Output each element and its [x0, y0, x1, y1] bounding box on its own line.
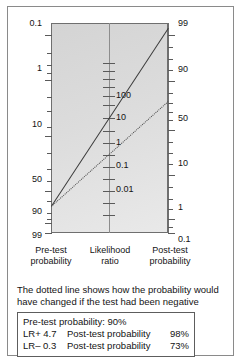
tick-center	[103, 143, 115, 144]
tick-center	[103, 63, 115, 64]
tick-right-minor	[168, 187, 173, 188]
tick-center	[103, 96, 115, 97]
post-test-tick-label: 10	[178, 159, 188, 168]
lr-negative-label: Post-test probability	[67, 340, 170, 352]
lr-positive-value: LR+ 4.7	[23, 328, 67, 340]
tick-center	[103, 71, 115, 72]
tick-right-minor	[168, 112, 173, 113]
tick-right	[168, 35, 175, 36]
tick-center	[103, 191, 115, 192]
pre-test-probability-row: Pre-test probability: 90%	[23, 316, 189, 328]
tick-right-minor	[168, 47, 173, 48]
post-test-tick-label: 0.1	[178, 235, 191, 244]
likelihood-ratio-tick-label: 0.01	[116, 185, 134, 194]
pre-test-tick-label: 1	[8, 64, 42, 73]
tick-left	[45, 191, 52, 192]
tick-left	[45, 35, 52, 36]
tick-center	[103, 179, 115, 180]
lr-negative-value: LR– 0.3	[23, 340, 67, 352]
tick-center	[103, 131, 115, 132]
tick-right-minor	[168, 164, 173, 165]
tick-center	[103, 105, 115, 106]
post-test-negative-value: 73%	[170, 340, 189, 352]
tick-left-minor	[47, 219, 52, 220]
tick-right-minor	[168, 142, 173, 143]
tick-right	[168, 175, 175, 176]
tick-left-minor	[47, 213, 52, 214]
tick-right-minor	[168, 93, 173, 94]
post-test-tick-label: 50	[178, 114, 188, 123]
tick-left-minor	[47, 111, 52, 112]
pre-test-tick-label: 50	[8, 175, 42, 184]
post-test-axis-caption-line1: Post-test	[135, 245, 205, 256]
tick-left	[45, 233, 52, 234]
tick-center	[103, 215, 115, 216]
tick-left-minor	[47, 153, 52, 154]
tick-left-minor	[47, 201, 52, 202]
tick-right	[168, 81, 175, 82]
post-test-axis-caption: Post-test probability	[135, 245, 205, 267]
tick-center	[103, 79, 115, 80]
post-test-tick-label: 99	[178, 19, 188, 28]
lr-positive-label: Post-test probability	[67, 328, 170, 340]
nomogram-chart: 0.1 1 10 50 90 99 100 10 1 0.1 0.01	[8, 7, 235, 247]
tick-right-minor	[168, 209, 173, 210]
tick-center	[103, 167, 115, 168]
post-test-tick-label: 90	[178, 65, 188, 74]
tick-right	[168, 233, 175, 234]
tick-left-minor	[47, 97, 52, 98]
pre-test-tick-label: 10	[8, 120, 42, 129]
figure-caption: The dotted line shows how the probabilit…	[17, 284, 227, 308]
tick-right-minor	[168, 199, 173, 200]
tick-center	[103, 87, 115, 88]
likelihood-ratio-axis-line	[109, 23, 110, 233]
pre-test-tick-label: 90	[8, 207, 42, 216]
results-box: Pre-test probability: 90% LR+ 4.7Post-te…	[17, 312, 195, 357]
tick-right-minor	[168, 59, 173, 60]
tick-right	[168, 219, 175, 220]
likelihood-ratio-tick-label: 0.1	[116, 161, 129, 170]
tick-left-minor	[47, 53, 52, 54]
tick-left	[45, 136, 52, 137]
likelihood-ratio-tick-label: 10	[116, 113, 126, 122]
tick-right-minor	[168, 227, 173, 228]
tick-right-minor	[168, 120, 173, 121]
tick-right-minor	[168, 70, 173, 71]
post-test-axis-caption-line2: probability	[135, 256, 205, 267]
tick-center	[103, 203, 115, 204]
tick-left	[45, 223, 52, 224]
post-test-tick-label: 1	[178, 203, 183, 212]
tick-left-minor	[47, 73, 52, 74]
pre-test-tick-label: 99	[8, 231, 42, 240]
tick-left-minor	[47, 65, 52, 66]
lr-negative-row: LR– 0.3Post-test probability73%	[23, 340, 189, 352]
post-test-axis-line	[168, 23, 169, 233]
tick-right-minor	[168, 153, 173, 154]
tick-left-minor	[47, 127, 52, 128]
nomogram-figure: 0.1 1 10 50 90 99 100 10 1 0.1 0.01	[7, 6, 234, 356]
post-test-positive-value: 98%	[170, 328, 189, 340]
tick-left	[45, 80, 52, 81]
tick-left-minor	[47, 169, 52, 170]
tick-left-minor	[47, 181, 52, 182]
lr-positive-row: LR+ 4.7Post-test probability98%	[23, 328, 189, 340]
tick-right	[168, 130, 175, 131]
tick-right-minor	[168, 103, 173, 104]
pre-test-tick-label: 0.1	[8, 19, 42, 28]
